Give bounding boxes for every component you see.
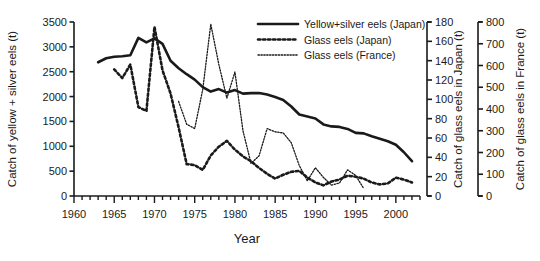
left-axis-tick-label: 2000: [43, 91, 67, 103]
right-axis-japan-tick-label: 0: [435, 190, 441, 202]
left-axis-tick-label: 1000: [43, 140, 67, 152]
x-axis-tick-label: 1980: [223, 208, 247, 220]
right-axis-france-tick-label: 200: [486, 147, 504, 159]
right-axis-france-tick-label: 500: [486, 81, 504, 93]
legend-label: Glass eels (Japan): [304, 34, 392, 46]
left-axis-tick-label: 3000: [43, 41, 67, 53]
right-axis-japan-tick-label: 40: [435, 151, 447, 163]
right-axis-france-tick-label: 600: [486, 60, 504, 72]
right-axis-japan-tick-label: 60: [435, 132, 447, 144]
right-axis-japan-tick-label: 100: [435, 93, 453, 105]
x-axis-tick-label: 1985: [263, 208, 287, 220]
right-axis-japan-tick-label: 20: [435, 171, 447, 183]
left-axis-tick-label: 0: [61, 190, 67, 202]
right-axis-japan-tick-label: 160: [435, 35, 453, 47]
x-axis-title: Year: [234, 231, 261, 246]
right-axis-france-tick-label: 0: [486, 190, 492, 202]
right-axis-france-title: Catch of glass eels in France (t): [514, 28, 526, 191]
left-axis-tick-label: 3500: [43, 16, 67, 28]
chart-canvas: 0500100015002000250030003500Catch of yel…: [0, 0, 540, 261]
right-axis-japan-tick-label: 120: [435, 74, 453, 86]
right-axis-france-tick-label: 800: [486, 16, 504, 28]
x-axis-tick-label: 1965: [102, 208, 126, 220]
right-axis-france-tick-label: 100: [486, 168, 504, 180]
x-axis-tick-label: 1975: [182, 208, 206, 220]
left-axis-tick-label: 2500: [43, 66, 67, 78]
right-axis-japan-tick-label: 140: [435, 55, 453, 67]
right-axis-france-tick-label: 400: [486, 103, 504, 115]
x-axis-tick-label: 1990: [303, 208, 327, 220]
x-axis-tick-label: 1960: [62, 208, 86, 220]
legend-label: Glass eels (France): [304, 49, 396, 61]
left-axis-title: Catch of yellow + silver eels (t): [6, 31, 18, 187]
x-axis-tick-label: 2000: [384, 208, 408, 220]
right-axis-france-tick-label: 300: [486, 125, 504, 137]
right-axis-japan-tick-label: 180: [435, 16, 453, 28]
right-axis-japan-tick-label: 80: [435, 113, 447, 125]
right-axis-france-tick-label: 700: [486, 38, 504, 50]
left-axis-tick-label: 500: [49, 165, 67, 177]
left-axis-tick-label: 1500: [43, 115, 67, 127]
x-axis-tick-label: 1970: [142, 208, 166, 220]
figure: 0500100015002000250030003500Catch of yel…: [0, 0, 540, 261]
x-axis-tick-label: 1995: [343, 208, 367, 220]
right-axis-japan-title: Catch of glass eels in Japan (t): [452, 30, 464, 188]
legend-label: Yellow+silver eels (Japan): [304, 18, 425, 30]
